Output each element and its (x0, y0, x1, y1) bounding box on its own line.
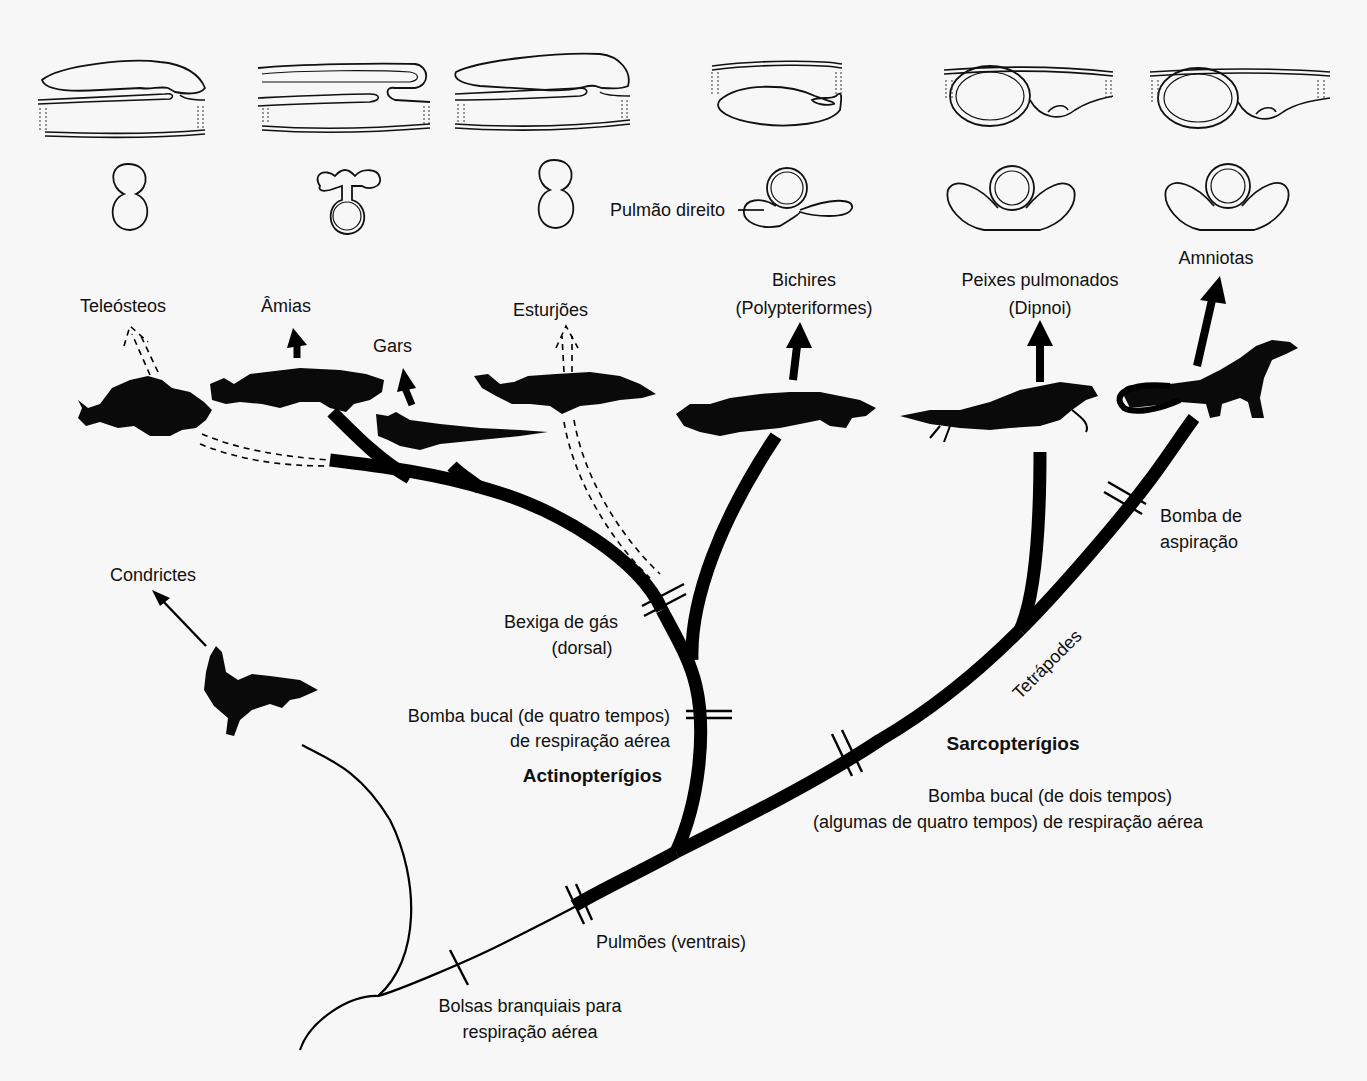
gars-silhouette (376, 412, 548, 450)
organ-section-dipnoi (944, 66, 1113, 126)
cross-section-teleosteos (113, 164, 148, 230)
organ-section-amias (258, 64, 430, 133)
label-bolsas-line1: Bolsas branquiais para (438, 996, 622, 1016)
bichires-silhouette (676, 392, 876, 436)
label-aspiracao-line2: aspiração (1160, 532, 1238, 552)
label-bexiga-line1: Bexiga de gás (504, 612, 618, 632)
arrow-dipnoi-icon (1027, 320, 1053, 382)
pulmao-direito-label: Pulmão direito (610, 200, 725, 220)
taxon-label-bichires: Bichires (772, 270, 836, 290)
cross-section-amias (318, 170, 381, 234)
label-bomba-quatro-line2: de respiração aérea (510, 731, 671, 751)
branch-bichires (692, 436, 776, 660)
organ-section-bichires (712, 61, 842, 125)
amias-silhouette (210, 368, 384, 412)
arrow-condrictes-icon (152, 590, 206, 646)
phylogeny-diagram: Pulmão direito Teleósteos Âmias Gars Est… (0, 0, 1367, 1081)
organ-section-amniotas (1150, 68, 1330, 128)
label-bomba-dois-line1: Bomba bucal (de dois tempos) (928, 786, 1172, 806)
organ-section-esturjoes (455, 54, 630, 130)
taxon-label-amniotas: Amniotas (1178, 248, 1253, 268)
label-pulmoes: Pulmões (ventrais) (596, 932, 746, 952)
label-bolsas-line2: respiração aérea (462, 1022, 598, 1042)
arrow-amniotas-icon (1197, 276, 1226, 366)
taxon-label-amias: Âmias (261, 296, 311, 316)
arrow-teleosteos-icon (124, 326, 158, 375)
branch-teleosteos-dashed (202, 434, 328, 460)
dipnoi-silhouette (900, 382, 1098, 430)
arrow-bichires-icon (786, 322, 812, 380)
clade-label-sarcopterigios: Sarcopterígios (946, 733, 1079, 754)
taxon-label-teleosteos: Teleósteos (80, 296, 166, 316)
arrow-amias-icon (287, 328, 307, 358)
arrow-gars-icon (397, 368, 416, 405)
teleosteos-silhouette (78, 376, 212, 436)
cross-section-dipnoi (947, 166, 1074, 230)
esturjoes-silhouette (474, 372, 656, 414)
taxon-label-condrictes: Condrictes (110, 565, 196, 585)
amniotas-silhouette (1123, 340, 1298, 418)
arrow-esturjoes-icon (556, 326, 578, 372)
branch-osteichthyes (574, 852, 676, 906)
taxon-label-peixes-pulmonados: Peixes pulmonados (961, 270, 1118, 290)
label-aspiracao-line1: Bomba de (1160, 506, 1242, 526)
label-bexiga-line2: (dorsal) (551, 638, 612, 658)
taxon-label-polypteriformes: (Polypteriformes) (735, 298, 872, 318)
branch-teleosteos-dashed-2 (200, 444, 328, 466)
cross-section-esturjoes (539, 160, 574, 228)
condrictes-silhouette (204, 646, 318, 736)
taxon-label-dipnoi: (Dipnoi) (1008, 298, 1071, 318)
label-bomba-quatro-line1: Bomba bucal (de quatro tempos) (408, 706, 670, 726)
organ-section-teleosteos (38, 61, 205, 137)
cross-section-bichires (744, 168, 852, 227)
branch-condrictes (302, 745, 411, 996)
taxon-label-esturjoes: Esturjões (513, 300, 588, 320)
clade-label-actinopterigios: Actinopterígios (523, 765, 662, 786)
taxon-label-gars: Gars (373, 336, 412, 356)
cross-section-amniotas (1165, 164, 1288, 230)
label-bomba-dois-line2: (algumas de quatro tempos) de respiração… (813, 812, 1204, 832)
tick-bomba-quatro (686, 711, 732, 718)
